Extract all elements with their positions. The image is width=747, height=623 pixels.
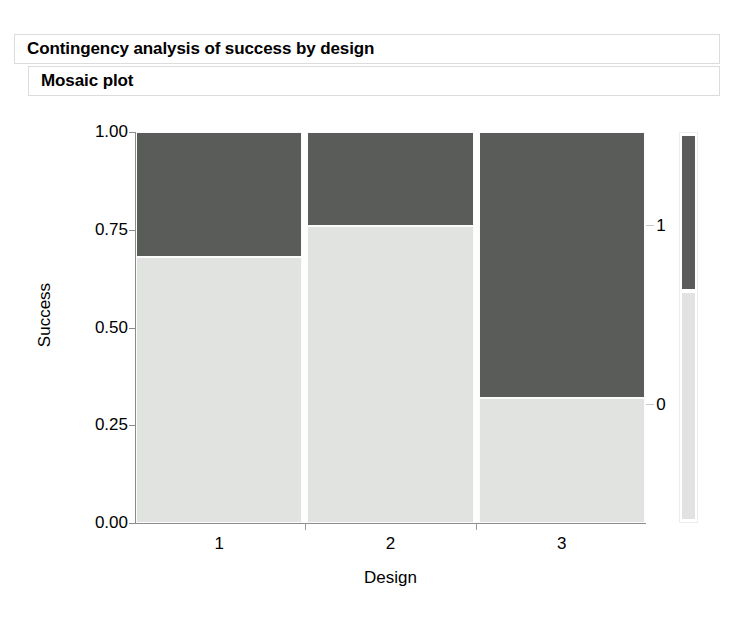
legend[interactable] xyxy=(679,132,698,523)
mosaic-plot-area xyxy=(136,132,645,523)
x-axis-title: Design xyxy=(136,568,645,588)
legend-label-0: 0 xyxy=(650,396,672,413)
report-title-bar[interactable]: Contingency analysis of success by desig… xyxy=(14,34,720,64)
y-tick-label-wrap-0: 0.00 xyxy=(66,514,128,531)
mosaic-tile-d2-s1[interactable] xyxy=(307,132,473,226)
y-tick-label-wrap-1: 0.25 xyxy=(66,416,128,433)
y-tick-3 xyxy=(129,230,136,231)
mosaic-tile-d3-s1[interactable] xyxy=(479,132,645,398)
x-tick-label-2: 2 xyxy=(361,534,421,554)
mosaic-plot: Success Design 0.000.250.500.751.00 123 … xyxy=(0,100,747,623)
y-tick-label-wrap-4: 1.00 xyxy=(66,123,128,140)
y-axis-title: Success xyxy=(35,255,55,375)
legend-swatch-0[interactable] xyxy=(682,293,695,519)
y-tick-label-2: 0.50 xyxy=(72,319,128,336)
x-tick-0 xyxy=(305,523,306,530)
mosaic-tile-d1-s0[interactable] xyxy=(136,257,302,523)
mosaic-tile-d3-s0[interactable] xyxy=(479,398,645,523)
y-tick-4 xyxy=(129,132,136,133)
section-title: Mosaic plot xyxy=(29,71,133,91)
y-tick-1 xyxy=(129,425,136,426)
mosaic-column-2[interactable] xyxy=(307,132,473,523)
mosaic-column-3[interactable] xyxy=(479,132,645,523)
y-tick-label-0: 0.00 xyxy=(72,514,128,531)
x-tick-label-3: 3 xyxy=(532,534,592,554)
y-tick-label-wrap-2: 0.50 xyxy=(66,319,128,336)
y-tick-label-3: 0.75 xyxy=(72,221,128,238)
y-tick-label-wrap-3: 0.75 xyxy=(66,221,128,238)
mosaic-tile-d1-s1[interactable] xyxy=(136,132,302,257)
section-title-bar[interactable]: Mosaic plot xyxy=(28,66,720,96)
x-axis-line xyxy=(136,523,646,524)
x-tick-1 xyxy=(476,523,477,530)
mosaic-tile-d2-s0[interactable] xyxy=(307,226,473,523)
y-tick-label-1: 0.25 xyxy=(72,416,128,433)
y-tick-label-4: 1.00 xyxy=(72,123,128,140)
x-tick-label-1: 1 xyxy=(189,534,249,554)
legend-label-1: 1 xyxy=(650,217,672,234)
page-title: Contingency analysis of success by desig… xyxy=(15,39,374,59)
mosaic-column-1[interactable] xyxy=(136,132,302,523)
legend-swatch-1[interactable] xyxy=(682,136,695,289)
y-tick-2 xyxy=(129,328,136,329)
y-tick-0 xyxy=(129,523,136,524)
